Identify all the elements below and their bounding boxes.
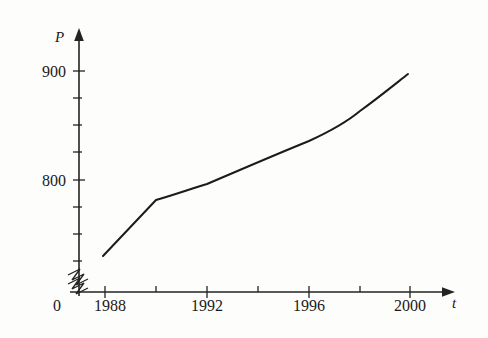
x-tick-label-1996: 1996 (293, 297, 325, 314)
line-chart: P t 0 900 800 1988 1992 1996 2000 (0, 0, 488, 338)
x-tick-label-1988: 1988 (94, 297, 126, 314)
y-axis-arrowhead (74, 28, 84, 41)
axis-break-icon (68, 269, 88, 294)
origin-label: 0 (53, 297, 61, 314)
x-tick-label-2000: 2000 (394, 297, 426, 314)
x-axis-label: t (452, 295, 457, 311)
data-series-line (103, 74, 408, 256)
x-tick-label-1992: 1992 (191, 297, 223, 314)
figure-canvas: P t 0 900 800 1988 1992 1996 2000 (0, 0, 488, 338)
y-axis-label: P (54, 29, 64, 45)
y-tick-label-800: 800 (42, 172, 66, 189)
y-tick-label-900: 900 (42, 63, 66, 80)
